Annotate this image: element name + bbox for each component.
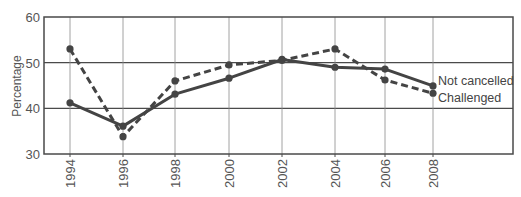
data-point-not-cancelled — [119, 123, 126, 130]
x-tick-label: 1996 — [116, 159, 131, 188]
data-point-not-cancelled — [171, 91, 178, 98]
x-tick-label: 2000 — [222, 159, 237, 188]
x-tick-label: 2006 — [378, 159, 393, 188]
x-tick-label: 1994 — [63, 159, 78, 188]
series-line-not-cancelled — [70, 59, 433, 126]
data-point-challenged — [225, 61, 232, 68]
legend-label-not-cancelled: Not cancelled — [438, 74, 514, 88]
data-point-challenged — [119, 133, 126, 140]
x-tick-label: 2004 — [328, 159, 343, 188]
data-point-challenged — [278, 57, 285, 64]
y-tick-label: 40 — [26, 101, 40, 116]
x-tick-label: 2008 — [426, 159, 441, 188]
x-tick-label: 1998 — [168, 159, 183, 188]
data-point-challenged — [171, 77, 178, 84]
data-point-challenged — [429, 90, 436, 97]
x-axis: 19941996199820002002200420062008 — [63, 154, 441, 188]
data-point-not-cancelled — [331, 64, 338, 71]
line-chart: 30405060 1994199619982000200220042006200… — [0, 0, 521, 197]
series-layer — [66, 45, 436, 140]
y-axis: 30405060 — [26, 10, 40, 162]
data-point-not-cancelled — [66, 99, 73, 106]
y-axis-label: Percentage — [10, 55, 24, 117]
data-point-challenged — [331, 45, 338, 52]
data-point-not-cancelled — [225, 75, 232, 82]
legend: Not cancelledChallenged — [438, 74, 514, 105]
data-point-challenged — [66, 45, 73, 52]
data-point-challenged — [381, 76, 388, 83]
data-point-not-cancelled — [381, 65, 388, 72]
y-tick-label: 30 — [26, 147, 40, 162]
y-tick-label: 60 — [26, 10, 40, 25]
legend-label-challenged: Challenged — [438, 91, 501, 105]
data-point-not-cancelled — [429, 82, 436, 89]
x-tick-label: 2002 — [275, 159, 290, 188]
y-tick-label: 50 — [26, 56, 40, 71]
